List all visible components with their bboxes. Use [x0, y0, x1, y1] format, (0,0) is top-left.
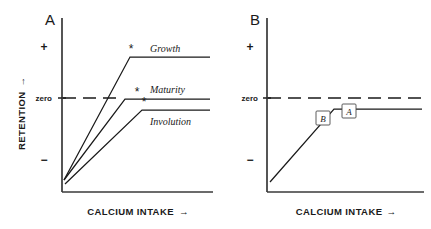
- panel-a-tick-minus: −: [40, 153, 47, 167]
- panel-b-x-axis-title: CALCIUM INTAKE→: [296, 206, 397, 217]
- panel-b-annotation-a-text: A: [345, 107, 352, 117]
- panel-a-marker-maturity: *: [135, 85, 140, 99]
- calcium-retention-figure: A + zero − RETENTION→ * * * Growth Matur…: [0, 0, 431, 229]
- panel-b-annotation-a: A: [342, 104, 356, 118]
- panel-a-marker-growth: *: [129, 42, 134, 56]
- panel-a-label-involution: Involution: [149, 116, 191, 127]
- panel-b-tick-plus: +: [246, 40, 253, 54]
- panel-b-letter: B: [250, 11, 260, 28]
- panel-a-letter: A: [45, 11, 55, 28]
- panel-a-label-growth: Growth: [150, 43, 180, 54]
- panel-b-annotation-b-text: B: [320, 114, 326, 124]
- panel-b-annotation-b: B: [316, 111, 330, 125]
- panel-a-tick-plus: +: [40, 40, 47, 54]
- panel-a-label-maturity: Maturity: [149, 84, 186, 95]
- figure-background: [0, 0, 431, 229]
- panel-a-tick-zero: zero: [36, 94, 53, 103]
- panel-a-marker-involution: *: [142, 95, 147, 109]
- panel-b-tick-minus: −: [246, 153, 253, 167]
- panel-b-tick-zero: zero: [242, 94, 259, 103]
- panel-a-x-axis-title: CALCIUM INTAKE→: [87, 206, 189, 217]
